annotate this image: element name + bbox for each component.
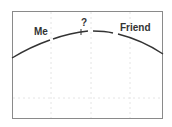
- label-me: Me: [34, 27, 48, 37]
- label-friend: Friend: [120, 23, 151, 33]
- label-question: ?: [81, 18, 87, 28]
